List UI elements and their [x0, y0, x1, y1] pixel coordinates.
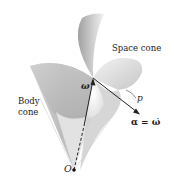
body-cone-label-line2: cone — [18, 107, 40, 118]
cone-diagram — [0, 0, 174, 188]
space-cone-label: Space cone — [112, 44, 161, 53]
origin-point — [72, 168, 76, 172]
p-leader-line — [126, 90, 136, 98]
p-label: p — [137, 94, 143, 103]
origin-label: O — [64, 164, 72, 174]
body-cone-label: Body cone — [18, 96, 40, 118]
alpha-label: α = ω̇ — [131, 118, 160, 127]
omega-label: ω — [81, 82, 90, 91]
body-cone-label-line1: Body — [18, 96, 40, 107]
